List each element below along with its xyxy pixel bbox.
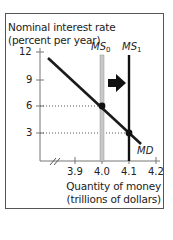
equilibrium-point-initial <box>99 103 106 110</box>
ms0-label: MS0 <box>91 41 110 54</box>
x-axis-label-line1: Quantity of money <box>66 180 161 193</box>
md-label: MD <box>137 145 153 156</box>
x-tick-label-3.9: 3.9 <box>67 167 83 177</box>
y-tick-label-6: 6 <box>26 101 32 111</box>
y-tick-label-12: 12 <box>19 47 32 57</box>
y-tick-label-9: 9 <box>26 75 32 85</box>
equilibrium-point-new <box>126 130 133 137</box>
x-tick-label-4.2: 4.2 <box>148 167 164 177</box>
x-tick-label-4.0: 4.0 <box>94 167 110 177</box>
x-tick-label-4.1: 4.1 <box>121 167 137 177</box>
y-tick-label-3: 3 <box>26 128 32 138</box>
x-axis-label-line2: (trillions of dollars) <box>67 193 161 206</box>
shift-right-arrow-icon <box>108 74 126 92</box>
ms1-label: MS1 <box>122 41 141 54</box>
